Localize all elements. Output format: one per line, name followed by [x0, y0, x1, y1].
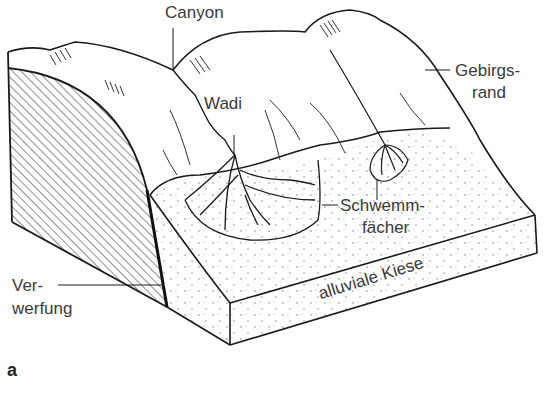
label-canyon: Canyon: [165, 3, 224, 22]
label-verwerfung-2: werfung: [12, 299, 72, 318]
label-schwemm-2: fächer: [362, 218, 409, 237]
label-wadi: Wadi: [204, 94, 242, 113]
panel-label: a: [7, 360, 17, 381]
alluvial-plain: [150, 130, 537, 345]
fault-cross-section: [8, 52, 167, 307]
label-gebirgsrand-1: Gebirgs-: [455, 61, 520, 80]
label-schwemm-1: Schwemm-: [340, 196, 425, 215]
label-gebirgsrand-2: rand: [472, 83, 506, 102]
label-verwerfung-1: Ver-: [12, 276, 43, 295]
